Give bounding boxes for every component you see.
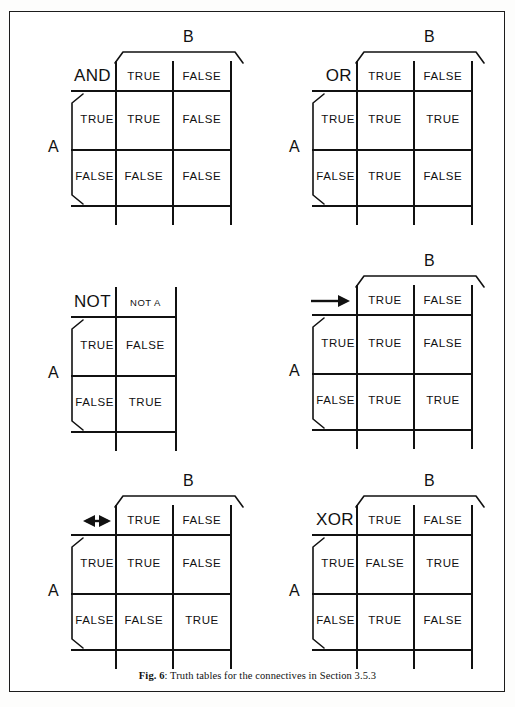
operator-icon-arrow-both [82,514,112,532]
figure-page: B AND A TRUE FA [0,0,515,707]
operator-icon-arrow-right [310,293,352,313]
row-variable-label: A [48,583,59,599]
cell-0-0: FALSE [116,317,175,375]
grid-vline-3 [471,285,473,449]
operator-label-and: AND [45,67,111,84]
column-variable-label: B [183,473,194,489]
row-header-0: TRUE [318,91,355,149]
row-variable-label: A [48,139,59,155]
operator-label-or: OR [288,67,352,84]
truth-table-or: B OR A TRUE FALSE TRUE FALSE [300,29,515,225]
col-header-0: TRUE [357,64,413,89]
cell-0-0: TRUE [357,315,413,373]
cell-0-1: TRUE [415,535,471,593]
truth-table-and: B AND A TRUE FA [57,29,302,225]
cell-1-1: TRUE [174,593,230,649]
row-header-1: FALSE [77,149,114,205]
col-header-1: FALSE [174,64,230,89]
grid-vline-3 [471,61,473,225]
cell-0-0: TRUE [116,91,172,149]
grid-vline-3 [230,61,232,225]
col-header-0: TRUE [357,508,413,533]
row-header-1: FALSE [77,375,114,431]
column-variable-label: B [424,29,435,45]
row-variable-label: A [289,363,300,379]
figure-caption-number: Fig. 6 [139,670,165,681]
grid-vline-3 [471,505,473,669]
cell-1-1: TRUE [415,373,471,429]
row-variable-label: A [289,139,300,155]
figure-caption-text: : Truth tables for the connectives in Se… [165,670,377,681]
row-variable-label: A [289,583,300,599]
grid-vline-2 [175,287,177,451]
truth-table-not: NOT A NOT A TRUE FALSE FALSE TRUE [57,267,257,447]
row-header-1: FALSE [77,593,114,649]
col-header-1: FALSE [174,508,230,533]
cell-1-1: FALSE [415,149,471,205]
cell-0-0: FALSE [357,535,413,593]
row-header-1: FALSE [318,373,355,429]
cell-1-0: TRUE [357,149,413,205]
truth-table-xor: B XOR A TRUE FALSE TRUE FALSE [300,473,515,669]
col-header-0: NOT A [116,291,175,315]
cell-1-1: FALSE [174,149,230,205]
row-header-1: FALSE [318,149,355,205]
cell-1-0: FALSE [116,149,172,205]
grid-hline-3 [71,205,230,207]
grid-hline-3 [71,649,230,651]
cell-0-1: FALSE [174,91,230,149]
truth-table-iff: B ↔ A [57,473,302,669]
cell-1-1: FALSE [415,593,471,649]
column-variable-label: B [424,253,435,269]
row-variable-label: A [48,365,59,381]
col-header-1: FALSE [415,64,471,89]
grid-hline-3 [312,649,471,651]
operator-label-xor: XOR [298,511,354,528]
row-header-0: TRUE [77,317,114,375]
row-header-1: FALSE [318,593,355,649]
cell-1-0: TRUE [357,373,413,429]
column-variable-label: B [183,29,194,45]
cell-1-0: TRUE [357,593,413,649]
cell-0-0: TRUE [357,91,413,149]
page-frame: B AND A TRUE FA [9,11,505,692]
cell-0-1: FALSE [174,535,230,593]
col-header-1: FALSE [415,288,471,313]
col-header-0: TRUE [116,508,172,533]
cell-1-0: FALSE [116,593,172,649]
grid-vline-3 [230,505,232,669]
figure-caption: Fig. 6: Truth tables for the connectives… [0,670,515,681]
col-header-0: TRUE [357,288,413,313]
grid-hline-3 [312,205,471,207]
row-header-0: TRUE [77,91,114,149]
row-header-0: TRUE [318,535,355,593]
col-header-0: TRUE [116,64,172,89]
cell-0-0: TRUE [116,535,172,593]
grid-hline-3 [71,431,175,433]
grid-hline-3 [312,429,471,431]
row-header-0: TRUE [77,535,114,593]
operator-label-not: NOT [45,293,111,310]
row-header-0: TRUE [318,315,355,373]
cell-0-1: FALSE [415,315,471,373]
cell-0-1: TRUE [415,91,471,149]
truth-table-implies: B → A [300,253,515,449]
cell-1-0: TRUE [116,375,175,431]
column-variable-label: B [424,473,435,489]
col-header-1: FALSE [415,508,471,533]
